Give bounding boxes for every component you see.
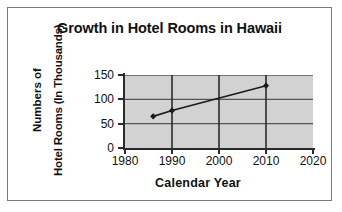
plot-area	[125, 75, 313, 148]
y-axis-tick-mark	[118, 123, 124, 125]
y-axis-title-line-2: Hotel Rooms (In Thousands)	[49, 44, 69, 156]
x-axis-tick-label: 1980	[105, 155, 145, 167]
y-axis-tick-label: 0	[80, 142, 114, 154]
x-axis-tick-label: 2020	[293, 155, 333, 167]
y-axis-tick-mark	[118, 98, 124, 100]
x-axis-tick-label: 1990	[152, 155, 192, 167]
series-line	[153, 86, 266, 117]
data-point-marker	[263, 83, 269, 89]
chart-frame: Growth in Hotel Rooms in Hawaii Numbers …	[7, 7, 332, 201]
data-point-marker	[169, 107, 175, 113]
x-axis-tick-label: 2010	[246, 155, 286, 167]
y-axis-line	[123, 73, 125, 150]
x-axis-tick-label: 2000	[199, 155, 239, 167]
y-axis-tick-label: 50	[80, 118, 114, 130]
data-point-marker	[150, 113, 156, 119]
x-axis-title: Calendar Year	[98, 176, 298, 190]
y-axis-title: Numbers of Hotel Rooms (In Thousands)	[28, 44, 80, 156]
vertical-gridlines	[172, 75, 266, 148]
y-axis-tick-mark	[118, 74, 124, 76]
y-axis-tick-label: 150	[80, 69, 114, 81]
y-axis-tick-label: 100	[80, 93, 114, 105]
y-axis-title-line-1: Numbers of	[28, 44, 48, 156]
plot-svg	[125, 75, 313, 148]
data-series	[150, 83, 269, 120]
